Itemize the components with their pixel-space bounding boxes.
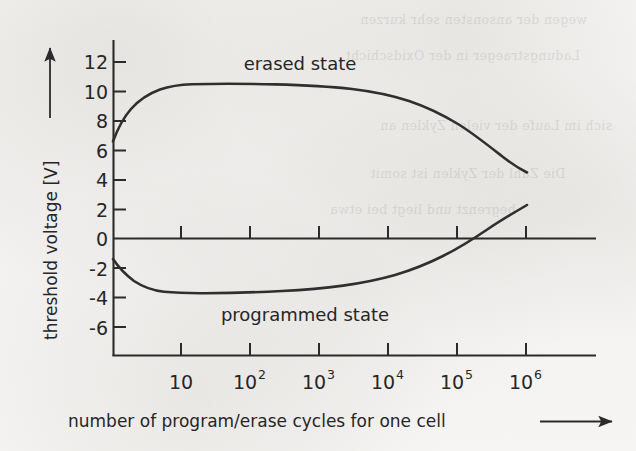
x-tick-exponent: 6 (534, 367, 542, 382)
series-label-programmed-state: programmed state (221, 304, 389, 325)
series-curve-programmed-state (113, 205, 527, 293)
chart-svg: 12 10 8 6 4 2 0 -2 -4 -6 (0, 0, 636, 451)
x-axis-title-group: number of program/erase cycles for one c… (68, 411, 612, 431)
x-axis-tick-labels: 10 10 2 10 3 10 4 10 5 10 6 (169, 367, 542, 393)
y-tick-label: 4 (96, 169, 108, 191)
x-tick-exponent: 2 (258, 367, 266, 382)
x-tick-label: 10 (169, 371, 193, 393)
y-tick-label: 12 (84, 51, 108, 73)
y-axis-ticks: 12 10 8 6 4 2 0 -2 -4 -6 (84, 51, 126, 339)
x-tick-label: 10 (302, 371, 326, 393)
series-label-erased-state: erased state (244, 53, 357, 74)
y-tick-label: -6 (89, 317, 108, 339)
x-axis-title: number of program/erase cycles for one c… (68, 411, 446, 431)
x-tick-label: 10 (440, 371, 464, 393)
y-tick-label: -2 (89, 258, 108, 280)
x-axis-ticks-bottom (181, 343, 526, 355)
y-axis-title-group: threshold voltage [V] (41, 48, 61, 340)
x-tick-label: 10 (233, 371, 257, 393)
y-tick-label: 6 (96, 140, 108, 162)
x-tick-label: 10 (509, 371, 533, 393)
y-tick-label: 8 (96, 110, 108, 132)
y-tick-label: 0 (96, 228, 108, 250)
x-tick-exponent: 5 (465, 367, 473, 382)
series-curve-erased-state (113, 84, 527, 173)
x-axis-ticks-zeroline (181, 226, 526, 238)
x-tick-label: 10 (371, 371, 395, 393)
y-tick-label: -4 (89, 287, 108, 309)
y-tick-label: 10 (84, 81, 108, 103)
y-tick-label: 2 (96, 199, 108, 221)
y-axis-title: threshold voltage [V] (41, 161, 61, 340)
x-tick-exponent: 4 (396, 367, 404, 382)
figure-container: wegen der ansonsten sehr kurzen Ladungst… (0, 0, 636, 451)
x-tick-exponent: 3 (327, 367, 335, 382)
